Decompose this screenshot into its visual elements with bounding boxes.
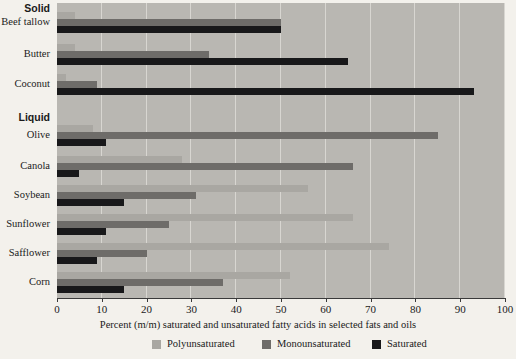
gridline-30: [190, 3, 191, 298]
legend-swatch-polyunsaturated: [152, 340, 161, 349]
gridline-90: [459, 3, 460, 298]
x-tick-10: [102, 298, 103, 302]
bar-sunflower-saturated: [57, 228, 106, 235]
bar-butter-monounsaturated: [57, 51, 209, 58]
x-tick-0: [57, 298, 58, 302]
legend-entry-polyunsaturated: Polyunsaturated: [152, 338, 235, 350]
bar-sunflower-polyunsaturated: [57, 214, 353, 221]
category-label-beef-tallow: Beef tallow: [1, 16, 50, 27]
x-tick-100: [505, 298, 506, 302]
gridline-80: [414, 3, 415, 298]
category-label-safflower: Safflower: [9, 247, 50, 258]
x-tick-label-20: 20: [141, 303, 152, 315]
x-tick-label-70: 70: [365, 303, 376, 315]
bar-beef-tallow-monounsaturated: [57, 19, 281, 26]
bar-corn-polyunsaturated: [57, 272, 290, 279]
x-tick-70: [371, 298, 372, 302]
bar-soybean-saturated: [57, 199, 124, 206]
x-axis-title: Percent (m/m) saturated and unsaturated …: [0, 319, 516, 331]
x-tick-label-80: 80: [410, 303, 421, 315]
legend-swatch-monounsaturated: [262, 340, 271, 349]
plot-area: [57, 3, 505, 298]
legend-label-polyunsaturated: Polyunsaturated: [167, 338, 235, 350]
x-tick-label-60: 60: [320, 303, 331, 315]
x-tick-90: [460, 298, 461, 302]
legend-entry-saturated: Saturated: [372, 338, 427, 350]
gridline-40: [235, 3, 236, 298]
bar-olive-monounsaturated: [57, 132, 438, 139]
bar-safflower-monounsaturated: [57, 250, 147, 257]
bar-butter-polyunsaturated: [57, 44, 75, 51]
bar-corn-monounsaturated: [57, 279, 223, 286]
x-tick-20: [147, 298, 148, 302]
x-tick-80: [415, 298, 416, 302]
bar-canola-polyunsaturated: [57, 156, 182, 163]
category-label-canola: Canola: [20, 160, 50, 171]
bar-coconut-polyunsaturated: [57, 74, 66, 81]
legend-swatch-saturated: [372, 340, 381, 349]
x-tick-label-50: 50: [276, 303, 287, 315]
bar-olive-saturated: [57, 139, 106, 146]
category-label-column: SolidLiquidBeef tallowButterCoconutOlive…: [0, 3, 54, 298]
bar-butter-saturated: [57, 58, 348, 65]
gridline-60: [325, 3, 326, 298]
group-heading-solid: Solid: [24, 3, 50, 14]
x-tick-label-90: 90: [455, 303, 466, 315]
chart-legend: PolyunsaturatedMonounsaturatedSaturated: [0, 338, 516, 354]
category-label-butter: Butter: [24, 48, 50, 59]
gridline-50: [280, 3, 281, 298]
category-label-olive: Olive: [27, 129, 50, 140]
x-tick-50: [281, 298, 282, 302]
x-tick-label-10: 10: [96, 303, 107, 315]
category-label-soybean: Soybean: [14, 189, 50, 200]
bar-beef-tallow-polyunsaturated: [57, 12, 75, 19]
fatty-acid-bar-chart: SolidLiquidBeef tallowButterCoconutOlive…: [0, 0, 516, 359]
x-tick-label-0: 0: [54, 303, 60, 315]
bar-sunflower-monounsaturated: [57, 221, 169, 228]
gridline-100: [504, 3, 505, 298]
legend-label-saturated: Saturated: [387, 338, 427, 350]
x-tick-label-40: 40: [231, 303, 242, 315]
bar-soybean-polyunsaturated: [57, 185, 308, 192]
legend-label-monounsaturated: Monounsaturated: [277, 338, 351, 350]
bar-safflower-saturated: [57, 257, 97, 264]
bar-canola-monounsaturated: [57, 163, 353, 170]
bar-safflower-polyunsaturated: [57, 243, 389, 250]
bar-olive-polyunsaturated: [57, 125, 93, 132]
bar-canola-saturated: [57, 170, 79, 177]
bar-beef-tallow-saturated: [57, 26, 281, 33]
x-tick-60: [326, 298, 327, 302]
category-label-sunflower: Sunflower: [6, 218, 50, 229]
bar-soybean-monounsaturated: [57, 192, 196, 199]
x-tick-label-100: 100: [497, 303, 514, 315]
x-tick-40: [236, 298, 237, 302]
category-label-coconut: Coconut: [14, 78, 50, 89]
gridline-70: [370, 3, 371, 298]
category-label-corn: Corn: [29, 276, 50, 287]
x-tick-label-30: 30: [186, 303, 197, 315]
bar-coconut-saturated: [57, 88, 474, 95]
bar-coconut-monounsaturated: [57, 81, 97, 88]
legend-entry-monounsaturated: Monounsaturated: [262, 338, 351, 350]
x-tick-30: [191, 298, 192, 302]
bar-corn-saturated: [57, 286, 124, 293]
group-heading-liquid: Liquid: [19, 112, 51, 123]
